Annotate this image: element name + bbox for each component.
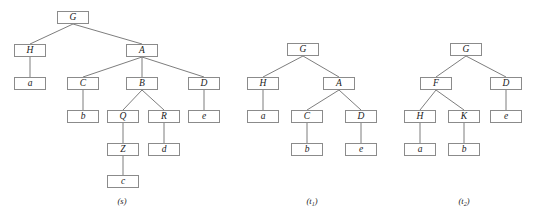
tree-node-label: D xyxy=(503,79,510,89)
tree-node-s-Q: Q xyxy=(107,110,139,123)
tree-node-label: e xyxy=(202,112,206,122)
tree-node-label: a xyxy=(418,145,423,155)
tree-node-s-R: R xyxy=(148,110,180,123)
tree-node-t1-H: H xyxy=(247,77,279,90)
tree-node-s-Z: Z xyxy=(107,143,139,156)
tree-node-t1-a: a xyxy=(247,110,279,123)
tree-edge-t2-G-to-t2-D xyxy=(466,56,506,77)
tree-edge-t2-F-to-t2-H xyxy=(420,90,436,110)
tree-node-label: a xyxy=(28,79,33,89)
tree-node-t2-b: b xyxy=(448,143,480,156)
tree-edge-t2-G-to-t2-F xyxy=(436,56,466,77)
tree-node-t2-F: F xyxy=(420,77,452,90)
tree-caption-t2: (t2) xyxy=(458,196,469,206)
tree-edge-s-B-to-s-R xyxy=(142,90,164,110)
tree-edge-s-G-to-s-H xyxy=(30,24,73,44)
tree-node-t2-a: a xyxy=(404,143,436,156)
tree-edge-s-A-to-s-C xyxy=(83,57,142,77)
tree-node-label: H xyxy=(260,79,267,89)
tree-edge-s-B-to-s-Q xyxy=(123,90,142,110)
tree-node-label: Q xyxy=(120,112,127,122)
tree-node-s-e: e xyxy=(188,110,220,123)
tree-node-t1-A: A xyxy=(323,77,355,90)
tree-figure: GHAaCBDbQReZdcGHAaCDbeGFDHKeab(s)(t1)(t2… xyxy=(0,0,533,220)
tree-edge-t1-G-to-t1-H xyxy=(263,56,303,77)
tree-node-label: G xyxy=(70,13,77,23)
tree-node-label: C xyxy=(80,79,86,89)
tree-node-label: e xyxy=(359,145,363,155)
tree-node-s-a: a xyxy=(14,77,46,90)
tree-node-label: K xyxy=(461,112,467,122)
tree-node-t1-b: b xyxy=(291,143,323,156)
tree-node-label: C xyxy=(304,112,310,122)
tree-caption-subscript: 2 xyxy=(464,201,467,207)
tree-node-label: D xyxy=(358,112,365,122)
tree-node-t2-G: G xyxy=(450,43,482,56)
tree-node-s-D: D xyxy=(188,77,220,90)
tree-node-label: G xyxy=(300,45,307,55)
tree-edge-t1-A-to-t1-D xyxy=(339,90,361,110)
tree-node-label: A xyxy=(139,46,145,56)
tree-edge-t2-F-to-t2-K xyxy=(436,90,464,110)
tree-node-s-B: B xyxy=(126,77,158,90)
tree-node-s-b: b xyxy=(67,110,99,123)
tree-node-t2-e: e xyxy=(490,110,522,123)
tree-node-label: D xyxy=(201,79,208,89)
tree-caption-subscript: 1 xyxy=(312,201,315,207)
tree-node-s-A: A xyxy=(126,44,158,57)
tree-node-label: c xyxy=(121,177,125,187)
tree-node-s-C: C xyxy=(67,77,99,90)
tree-node-label: H xyxy=(27,46,34,56)
tree-caption-s: (s) xyxy=(118,196,127,206)
tree-node-label: F xyxy=(433,79,439,89)
tree-node-t2-H: H xyxy=(404,110,436,123)
tree-node-s-c: c xyxy=(107,175,139,188)
tree-edge-s-G-to-s-A xyxy=(73,24,142,44)
tree-node-s-H: H xyxy=(14,44,46,57)
tree-node-s-G: G xyxy=(57,11,89,24)
tree-node-t1-e: e xyxy=(345,143,377,156)
tree-node-label: Z xyxy=(120,145,125,155)
tree-node-t1-D: D xyxy=(345,110,377,123)
tree-node-label: b xyxy=(305,145,310,155)
tree-edge-s-A-to-s-D xyxy=(142,57,204,77)
tree-node-label: R xyxy=(161,112,167,122)
tree-node-label: b xyxy=(462,145,467,155)
tree-node-label: B xyxy=(139,79,145,89)
tree-node-t1-G: G xyxy=(287,43,319,56)
tree-node-label: H xyxy=(417,112,424,122)
tree-node-label: e xyxy=(504,112,508,122)
tree-node-label: a xyxy=(261,112,266,122)
tree-caption-t1: (t1) xyxy=(306,196,317,206)
tree-node-s-d: d xyxy=(148,143,180,156)
tree-node-label: d xyxy=(162,145,167,155)
tree-edge-t1-G-to-t1-A xyxy=(303,56,339,77)
tree-node-label: b xyxy=(81,112,86,122)
tree-node-t2-D: D xyxy=(490,77,522,90)
tree-node-t1-C: C xyxy=(291,110,323,123)
tree-caption-close: ) xyxy=(467,196,470,206)
tree-edge-t1-A-to-t1-C xyxy=(307,90,339,110)
tree-caption-close: ) xyxy=(315,196,318,206)
tree-node-t2-K: K xyxy=(448,110,480,123)
tree-node-label: A xyxy=(336,79,342,89)
tree-node-label: G xyxy=(463,45,470,55)
tree-caption-text: (s) xyxy=(118,196,127,206)
